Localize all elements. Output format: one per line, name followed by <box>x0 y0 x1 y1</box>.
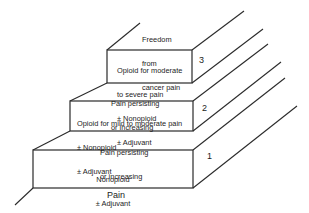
step-3-number: 3 <box>199 55 204 65</box>
treatment-line: Nonopioid <box>60 176 166 184</box>
treatment-line: Opioid for moderate <box>117 67 182 75</box>
base-ground-line <box>15 188 33 205</box>
step-2-tread-left-edge <box>70 83 107 101</box>
step-1-top-depth-edge <box>193 78 285 150</box>
step-2-number: 2 <box>202 103 207 113</box>
step-2-top-depth-edge <box>193 44 268 101</box>
analgesic-ladder-diagram: Freedom from cancer pain Opioid for mode… <box>0 0 309 213</box>
step-3-top-depth-edge <box>192 11 244 50</box>
step-1-number: 1 <box>207 151 212 161</box>
transition-line: Pain persisting <box>100 149 148 157</box>
step-1-treatment: Nonopioid ± Adjuvant <box>60 160 166 213</box>
step-1-tread-left-edge <box>33 131 70 150</box>
treatment-line: ± Adjuvant <box>60 200 166 208</box>
base-pain-label: Pain <box>107 190 125 200</box>
goal-label-line: Freedom <box>142 36 180 44</box>
treatment-line: Opioid for mild to moderate pain <box>77 120 182 128</box>
step-3-tread-left-edge <box>107 23 140 50</box>
